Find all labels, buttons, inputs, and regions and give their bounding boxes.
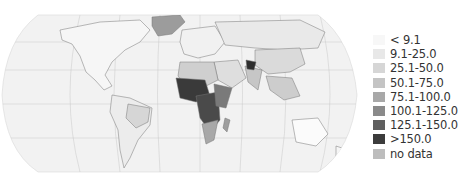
legend-item: 50.1-75.0	[373, 76, 463, 90]
legend-swatch	[373, 149, 385, 159]
legend-label: 125.1-150.0	[390, 119, 458, 131]
legend-item: >150.0	[373, 132, 463, 146]
russia	[215, 20, 325, 50]
legend-label: >150.0	[390, 133, 431, 145]
legend-item: 9.1-25.0	[373, 47, 463, 61]
legend-swatch	[373, 63, 385, 73]
legend-label: 100.1-125.0	[390, 105, 458, 117]
legend-label: no data	[390, 148, 432, 160]
afghanistan-pakistan	[246, 60, 256, 70]
legend-label: 25.1-50.0	[390, 62, 444, 74]
legend-label: 9.1-25.0	[390, 48, 436, 60]
legend-swatch	[373, 49, 385, 59]
legend-swatch	[373, 106, 385, 116]
legend-swatch	[373, 78, 385, 88]
legend-swatch	[373, 35, 385, 45]
world-choropleth-map	[0, 0, 370, 183]
legend: < 9.1 9.1-25.0 25.1-50.0 50.1-75.0 75.1-…	[373, 33, 463, 161]
legend-swatch	[373, 92, 385, 102]
legend-item: < 9.1	[373, 33, 463, 47]
legend-item: 125.1-150.0	[373, 118, 463, 132]
legend-item: 100.1-125.0	[373, 104, 463, 118]
legend-swatch	[373, 134, 385, 144]
legend-swatch	[373, 120, 385, 130]
legend-item: no data	[373, 147, 463, 161]
legend-label: 50.1-75.0	[390, 77, 444, 89]
new-zealand	[336, 146, 342, 160]
legend-label: < 9.1	[390, 34, 421, 46]
legend-item: 25.1-50.0	[373, 61, 463, 75]
legend-label: 75.1-100.0	[390, 91, 451, 103]
legend-item: 75.1-100.0	[373, 90, 463, 104]
